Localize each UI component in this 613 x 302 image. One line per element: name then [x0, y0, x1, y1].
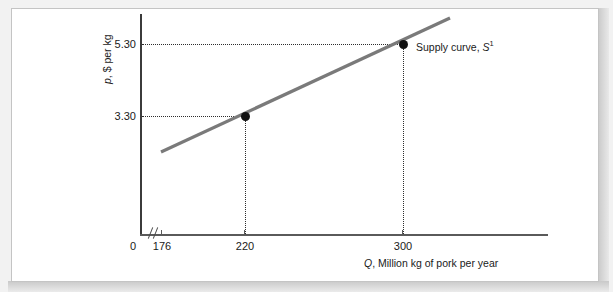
x-axis-variable: Q	[364, 257, 372, 269]
x-tick-mark-176	[161, 230, 162, 235]
x-tick-label-220: 220	[231, 241, 259, 252]
gridline-horizontal-5_30	[142, 44, 404, 45]
data-point-220-3_30	[241, 112, 250, 121]
supply-curve-label-prefix: Supply curve,	[416, 41, 483, 53]
x-axis-title: Q, Million kg of pork per year	[364, 258, 498, 269]
figure-root: 5.30 3.30 0 176 220 300 p, $ per kg Q, M…	[0, 0, 613, 302]
supply-curve-label: Supply curve, S1	[416, 40, 494, 52]
y-axis-title: p, $ per kg	[101, 34, 113, 84]
dropline-vertical-220	[245, 116, 246, 234]
supply-curve-line	[0, 0, 613, 302]
gridline-horizontal-3_30	[142, 116, 246, 117]
y-axis-line	[140, 14, 142, 235]
supply-curve-label-symbol: S	[483, 41, 490, 53]
x-axis-break-icon	[147, 226, 161, 239]
x-tick-label-0: 0	[123, 241, 143, 252]
x-axis-line	[140, 234, 548, 236]
data-point-300-5_30	[399, 40, 408, 49]
dropline-vertical-300	[403, 44, 404, 234]
y-tick-label-3_30: 3.30	[106, 111, 136, 122]
x-axis-title-rest: , Million kg of pork per year	[372, 257, 498, 269]
chart-plot-area: 5.30 3.30 0 176 220 300 p, $ per kg Q, M…	[0, 0, 613, 302]
x-tick-label-176: 176	[148, 241, 176, 252]
supply-curve-label-superscript: 1	[490, 39, 494, 48]
y-axis-variable: p	[101, 78, 113, 84]
x-tick-label-300: 300	[389, 241, 417, 252]
y-axis-title-rest: , $ per kg	[101, 34, 113, 78]
